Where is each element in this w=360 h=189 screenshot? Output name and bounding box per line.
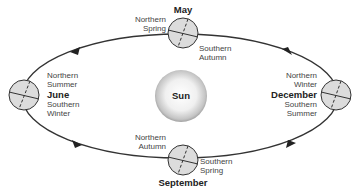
earth-may [168, 18, 198, 48]
seasons-diagram: Sun May Northern Spring Southern Autumn … [0, 0, 360, 189]
season-north-may: Northern Spring [126, 15, 166, 33]
month-label-may: May [166, 5, 200, 15]
earth-june [9, 80, 39, 110]
season-south-december: Southern Summer [270, 100, 317, 118]
season-north-december: Northern Winter [270, 71, 317, 89]
earth-december [321, 80, 351, 110]
season-north-june: Northern Summer [47, 71, 78, 89]
month-label-december: December [262, 90, 317, 100]
season-north-september: Northern Autumn [126, 133, 166, 151]
earth-september [168, 145, 198, 175]
month-label-june: June [47, 90, 69, 100]
season-south-june: Southern Winter [47, 100, 79, 118]
month-label-september: September [155, 178, 211, 188]
season-south-september: Southern Spring [200, 157, 232, 175]
sun-label: Sun [166, 91, 196, 101]
season-south-may: Southern Autumn [199, 44, 231, 62]
